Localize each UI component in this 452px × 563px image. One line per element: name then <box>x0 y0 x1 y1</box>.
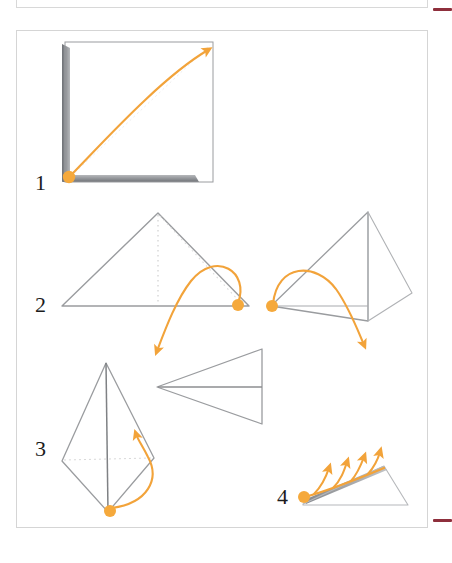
step-label-3: 3 <box>35 438 46 460</box>
step-label-4: 4 <box>277 486 288 508</box>
previous-figure-panel <box>16 0 428 8</box>
step-label-1: 1 <box>35 172 46 194</box>
instruction-figure-panel <box>16 30 428 528</box>
instruction-sheet: 1 2 3 4 <box>0 0 452 563</box>
top-rule-mark <box>433 8 452 11</box>
bottom-rule-mark <box>433 519 452 522</box>
step-label-2: 2 <box>35 294 46 316</box>
